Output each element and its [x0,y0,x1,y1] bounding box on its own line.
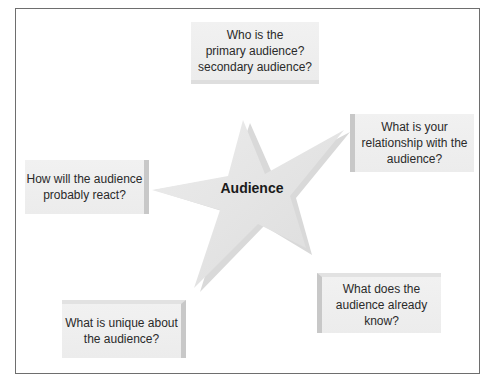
question-line: relationship with the [361,135,467,151]
question-line: audience? [361,151,467,167]
question-line: audience already [336,297,427,313]
question-line: the audience? [65,331,178,347]
question-box-primary-secondary: Who is the primary audience? secondary a… [191,22,319,84]
question-box-react: How will the audience probably react? [25,160,149,214]
question-line: secondary audience? [198,59,312,75]
question-box-unique: What is unique about the audience? [62,300,186,358]
question-line: know? [336,313,427,329]
question-line: What is unique about [65,315,178,331]
question-line: How will the audience [26,171,142,187]
question-line: What is your [361,119,467,135]
question-box-already-know: What does the audience already know? [317,273,441,333]
question-line: primary audience? [198,43,312,59]
question-line: probably react? [26,187,142,203]
center-label: Audience [212,180,292,196]
question-box-relationship: What is your relationship with the audie… [350,114,474,172]
question-line: What does the [336,281,427,297]
question-line: Who is the [198,27,312,43]
